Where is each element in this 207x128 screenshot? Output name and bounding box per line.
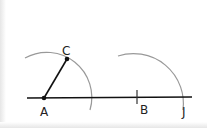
arc-centered-a bbox=[25, 52, 92, 110]
label-c: C bbox=[62, 44, 70, 58]
geometry-figure: C A B J bbox=[0, 0, 207, 128]
label-b: B bbox=[140, 103, 148, 117]
base-line bbox=[27, 97, 192, 98]
diagram-canvas: C A B J bbox=[0, 0, 207, 128]
segment-ac bbox=[44, 59, 67, 98]
arc-through-j bbox=[118, 54, 183, 110]
label-j: J bbox=[181, 105, 186, 119]
label-a: A bbox=[40, 105, 49, 119]
point-a bbox=[42, 96, 47, 101]
